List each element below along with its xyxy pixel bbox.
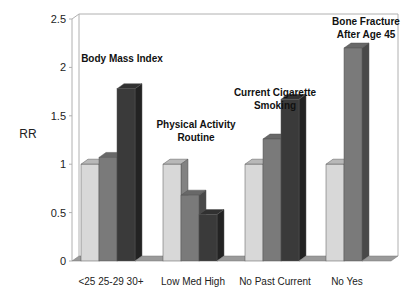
y-axis: 00.511.522.5	[51, 13, 72, 267]
y-tick-label: 1.5	[51, 110, 66, 122]
group-title: Smoking	[254, 100, 296, 111]
bars	[72, 43, 398, 261]
y-tick-label: 2	[60, 61, 66, 73]
relative-risk-bar-chart: 00.511.522.5 RR <25 25-29 30+Low Med Hig…	[0, 0, 412, 300]
bar	[199, 210, 224, 261]
bar	[281, 94, 306, 261]
group-title: Routine	[177, 132, 215, 143]
group-title: After Age 45	[337, 29, 396, 40]
y-axis-label: RR	[19, 127, 37, 141]
x-category-labels: <25 25-29 30+	[78, 276, 143, 287]
group-title: Current Cigarette	[234, 87, 317, 98]
group-title: Body Mass Index	[81, 53, 163, 64]
bar	[344, 43, 369, 261]
group-title: Physical Activity	[156, 119, 236, 130]
x-axis-labels: <25 25-29 30+Low Med HighNo Past Current…	[78, 276, 362, 287]
bar	[117, 84, 142, 261]
x-category-labels: No Yes	[331, 276, 363, 287]
x-category-labels: No Past Current	[239, 276, 311, 287]
y-tick-label: 0	[60, 255, 66, 267]
y-tick-label: 0.5	[51, 207, 66, 219]
group-title: Bone Fracture	[332, 16, 400, 27]
y-tick-label: 2.5	[51, 13, 66, 25]
y-tick-label: 1	[60, 158, 66, 170]
x-category-labels: Low Med High	[161, 276, 225, 287]
